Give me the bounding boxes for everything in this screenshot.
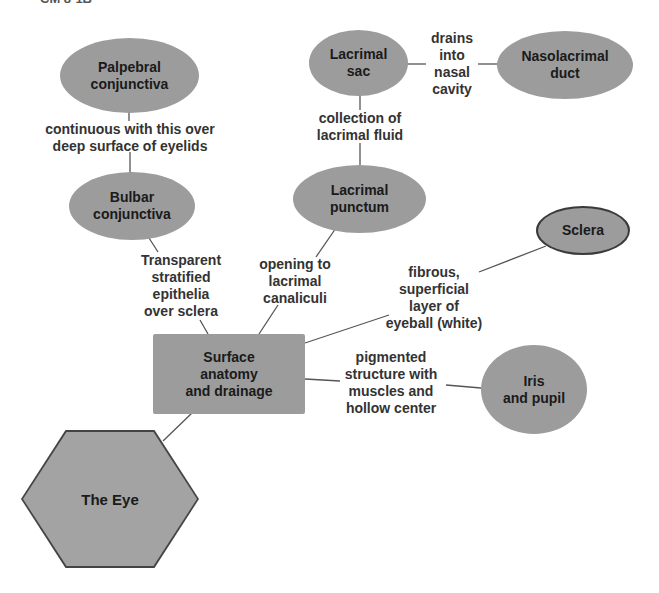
node-label: Surface anatomy and drainage	[185, 349, 272, 400]
line-bulbar-label	[149, 238, 158, 252]
link-label-sclera-center: fibrous, superficial layer of eyeball (w…	[380, 264, 488, 332]
link-label-sac-duct: drains into nasal cavity	[424, 30, 480, 98]
node-sclera[interactable]: Sclera	[536, 206, 630, 255]
link-label-palpebral-bulbar: continuous with this over deep surface o…	[40, 121, 220, 155]
node-iris-and-pupil[interactable]: Iris and pupil	[481, 345, 587, 434]
node-label: Sclera	[562, 222, 604, 239]
line-center-pigment	[305, 379, 340, 381]
node-label: Lacrimal punctum	[330, 182, 389, 216]
line-label-center-b	[305, 315, 389, 343]
node-label: The Eye	[81, 491, 139, 508]
node-label: Nasolacrimal duct	[521, 48, 608, 82]
link-label-bulbar-center: Transparent stratified epithelia over sc…	[128, 252, 234, 320]
node-label: Iris and pupil	[503, 373, 565, 407]
node-palpebral-conjunctiva[interactable]: Palpebral conjunctiva	[60, 38, 199, 113]
line-center-eye	[163, 413, 192, 441]
line-sclera-label	[479, 246, 546, 272]
node-lacrimal-sac[interactable]: Lacrimal sac	[309, 30, 408, 96]
node-label: Palpebral conjunctiva	[91, 59, 169, 93]
node-lacrimal-punctum[interactable]: Lacrimal punctum	[293, 165, 426, 233]
link-label-iris-center: pigmented structure with muscles and hol…	[336, 349, 446, 417]
node-label: Bulbar conjunctiva	[93, 189, 171, 223]
line-pigment-iris	[446, 385, 481, 388]
link-label-punctum-center: opening to lacrimal canaliculi	[248, 256, 342, 307]
node-surface-anatomy-and-drainage[interactable]: Surface anatomy and drainage	[153, 334, 305, 414]
line-label-center-a	[200, 320, 208, 334]
line-punctum-opening	[316, 228, 336, 257]
node-label: Lacrimal sac	[330, 46, 388, 80]
link-label-sac-punctum: collection of lacrimal fluid	[310, 110, 410, 144]
line-opening-center	[259, 305, 278, 334]
node-bulbar-conjunctiva[interactable]: Bulbar conjunctiva	[69, 172, 195, 240]
node-nasolacrimal-duct[interactable]: Nasolacrimal duct	[497, 31, 633, 99]
